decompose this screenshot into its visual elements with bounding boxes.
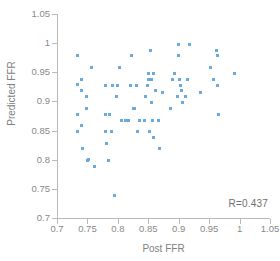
plot-area — [57, 14, 270, 218]
x-axis-line — [57, 218, 270, 219]
y-axis-title: Predicted FFR — [6, 29, 17, 159]
data-point — [173, 72, 176, 75]
data-point — [186, 78, 189, 81]
data-point — [233, 72, 236, 75]
data-point — [149, 49, 152, 52]
data-point — [212, 78, 215, 81]
data-point — [188, 43, 191, 46]
data-point — [120, 119, 123, 122]
y-tick-label: 1.05 — [8, 9, 50, 19]
data-point — [85, 107, 88, 110]
data-point — [177, 54, 180, 57]
data-point — [90, 66, 93, 69]
data-point — [216, 54, 219, 57]
data-point — [104, 113, 107, 116]
data-point — [177, 43, 180, 46]
data-point — [215, 49, 218, 52]
data-point — [154, 89, 157, 92]
data-point — [130, 54, 133, 57]
data-point — [113, 194, 116, 197]
data-point — [108, 113, 111, 116]
data-point — [136, 130, 139, 133]
data-point — [104, 84, 107, 87]
data-point — [152, 136, 155, 139]
data-point — [147, 72, 150, 75]
data-point — [151, 119, 154, 122]
data-point — [181, 101, 184, 104]
data-point — [115, 95, 118, 98]
data-point — [146, 84, 149, 87]
scatter-chart: 0.70.750.80.850.90.9511.05 0.70.750.80.8… — [0, 0, 280, 261]
correlation-annotation: R=0.437 — [229, 198, 269, 209]
data-point — [116, 84, 119, 87]
data-point — [180, 89, 183, 92]
data-point — [76, 113, 79, 116]
data-point — [104, 130, 107, 133]
x-tick-label: 1.05 — [250, 224, 280, 234]
data-point — [148, 130, 151, 133]
data-point — [80, 89, 83, 92]
data-point — [184, 95, 187, 98]
data-point — [127, 119, 130, 122]
data-point — [157, 119, 160, 122]
data-point — [80, 124, 83, 127]
data-point — [76, 83, 79, 86]
data-point — [158, 147, 161, 150]
data-point — [169, 107, 172, 110]
data-point — [93, 165, 96, 168]
data-point — [110, 130, 113, 133]
data-point — [144, 95, 147, 98]
data-point — [80, 78, 83, 81]
data-point — [138, 119, 141, 122]
data-point — [216, 84, 219, 87]
data-point — [178, 78, 181, 81]
data-point — [179, 84, 182, 87]
data-point — [76, 54, 79, 57]
chart-title — [62, 0, 212, 5]
data-point — [135, 84, 138, 87]
data-point — [107, 159, 110, 162]
data-point — [85, 95, 88, 98]
data-point — [150, 101, 153, 104]
data-point — [76, 130, 79, 133]
data-point — [111, 84, 114, 87]
x-axis-title: Post FFR — [57, 243, 270, 254]
data-point — [105, 142, 108, 145]
data-point — [161, 91, 164, 94]
data-point — [118, 66, 121, 69]
data-point — [171, 78, 174, 81]
data-point — [133, 107, 136, 110]
data-point — [143, 119, 146, 122]
data-point — [129, 84, 132, 87]
data-point — [176, 95, 179, 98]
data-point — [199, 91, 202, 94]
data-point — [209, 66, 212, 69]
data-point — [217, 113, 220, 116]
data-point — [87, 158, 90, 161]
y-tick-label: 0.7 — [8, 213, 50, 223]
data-point — [81, 147, 84, 150]
data-point — [152, 72, 155, 75]
data-point — [124, 119, 127, 122]
data-point — [150, 78, 153, 81]
y-tick-label: 0.75 — [8, 184, 50, 194]
